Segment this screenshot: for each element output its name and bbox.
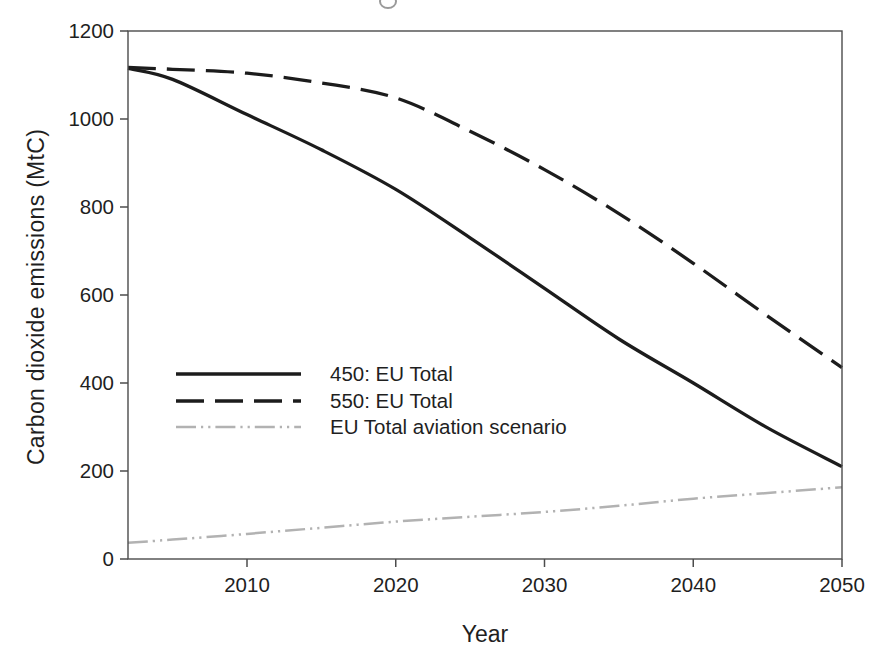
legend-swatch-solid-line [175, 370, 302, 378]
y-tick-label: 1200 [68, 19, 114, 42]
series-line-550-eu-total [128, 68, 842, 368]
x-axis-title: Year [462, 621, 508, 648]
legend-label: 450: EU Total [330, 362, 453, 386]
y-tick-label: 200 [80, 459, 114, 482]
y-tick-label: 800 [80, 195, 114, 218]
legend-label: 550: EU Total [330, 389, 453, 413]
legend-label: EU Total aviation scenario [330, 415, 567, 439]
legend-swatch-dashed-line [175, 397, 302, 405]
legend-item-550-eu-total: 550: EU Total [175, 388, 567, 415]
legend: 450: EU Total 550: EU Total EU Total avi… [175, 361, 567, 441]
y-tick-label: 400 [80, 371, 114, 394]
y-tick-label: 1000 [68, 107, 114, 130]
legend-item-450-eu-total: 450: EU Total [175, 361, 567, 388]
legend-swatch-dash-dot-dot-line [175, 423, 302, 431]
x-tick-label: 2030 [522, 573, 568, 596]
plot-area: 0200400600800100012002010202020302040205… [0, 0, 878, 665]
emissions-chart-figure: 0200400600800100012002010202020302040205… [0, 0, 878, 665]
x-tick-label: 2040 [670, 573, 716, 596]
y-axis-title: Carbon dioxide emissions (MtC) [23, 129, 50, 465]
x-tick-label: 2050 [819, 573, 865, 596]
y-tick-label: 0 [103, 547, 114, 570]
legend-item-aviation-scenario: EU Total aviation scenario [175, 414, 567, 441]
y-tick-label: 600 [80, 283, 114, 306]
x-tick-label: 2010 [224, 573, 270, 596]
series-line-eu-total-aviation-scenario [128, 487, 842, 542]
x-tick-label: 2020 [373, 573, 419, 596]
